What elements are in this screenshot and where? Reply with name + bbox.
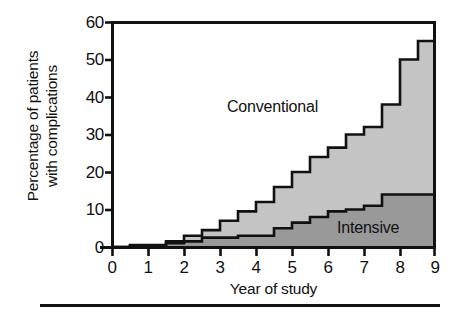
series-label-intensive: Intensive xyxy=(337,220,399,236)
x-axis-title: Year of study xyxy=(112,281,435,297)
plot-area xyxy=(0,0,473,319)
figure-container: Percentage of patients with complication… xyxy=(0,0,473,319)
figure-bottom-rule xyxy=(40,304,440,307)
series-label-conventional: Conventional xyxy=(227,99,318,115)
y-axis-ticks xyxy=(105,23,112,248)
